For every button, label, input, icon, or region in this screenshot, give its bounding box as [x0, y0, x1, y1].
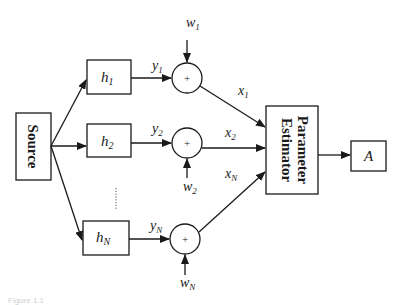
output-block-A: A [351, 141, 386, 171]
wN-label: wN [180, 275, 196, 292]
arrow-x1 [200, 86, 265, 127]
arrow-source-hN [51, 146, 82, 240]
xN-label: xN [224, 166, 238, 183]
block-diagram: Source h1 h2 hN y1 y2 yN + + + w1 w2 [0, 0, 403, 305]
w1-label: w1 [186, 15, 200, 32]
source-label: Source [25, 125, 41, 169]
y2-label: y2 [150, 121, 163, 138]
svg-text:+: + [184, 72, 190, 84]
arrow-source-h1 [51, 80, 86, 146]
svg-text:+: + [182, 233, 188, 245]
w2-label: w2 [183, 179, 197, 196]
filter-hN: hN [83, 221, 129, 255]
x1-label: x1 [237, 83, 249, 100]
figure-caption: Figure 1.1 [8, 296, 45, 305]
yN-label: yN [148, 218, 163, 235]
sum-junction-2: + [172, 128, 202, 158]
svg-text:+: + [184, 137, 190, 149]
y1-label: y1 [150, 58, 163, 75]
source-block: Source [16, 113, 51, 180]
sum-junction-1: + [172, 63, 202, 93]
filter-h2: h2 [87, 124, 131, 157]
svg-text:A: A [363, 148, 374, 164]
x2-label: x2 [224, 125, 236, 142]
svg-text:Estimator: Estimator [279, 118, 295, 182]
filter-h1: h1 [87, 60, 131, 94]
sum-junction-N: + [170, 224, 200, 254]
svg-text:Parameter: Parameter [295, 116, 311, 185]
parameter-estimator-block: Parameter Estimator [266, 106, 318, 194]
